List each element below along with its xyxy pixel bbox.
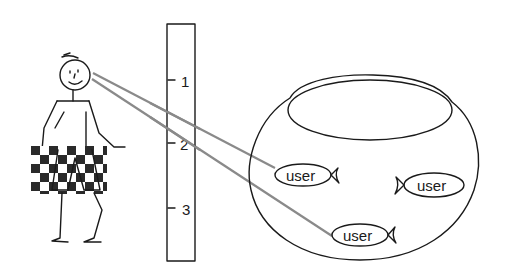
fish: user (395, 173, 464, 197)
sight-line-upper-segment (150, 103, 200, 129)
figure-right-leg (84, 193, 102, 242)
fish-tail (388, 227, 396, 243)
fish-label: user (343, 227, 372, 244)
scale-tick-label-3: 3 (182, 201, 190, 218)
scale-tick-label-1: 1 (181, 73, 189, 90)
sight-line-lower (92, 79, 332, 236)
fish: user (275, 164, 339, 186)
diagram-canvas: 1 2 3 user user user (0, 0, 509, 274)
figure-left-inner-arm (55, 112, 64, 128)
fish-tail (331, 168, 339, 183)
sight-line-lower-segment (150, 117, 200, 150)
figure-smile (69, 81, 82, 84)
fish-tail (395, 177, 404, 194)
fish-label: user (286, 167, 315, 184)
figure-eyes (70, 70, 78, 73)
figure-right-arm (89, 101, 125, 147)
bowl-opening (288, 80, 452, 140)
fish: user (332, 224, 396, 246)
figure-left-leg (52, 193, 68, 242)
figure-nose (74, 74, 75, 78)
fish-label: user (417, 177, 446, 194)
figure-hair (62, 56, 78, 58)
figure-hair-tuft (64, 53, 70, 55)
